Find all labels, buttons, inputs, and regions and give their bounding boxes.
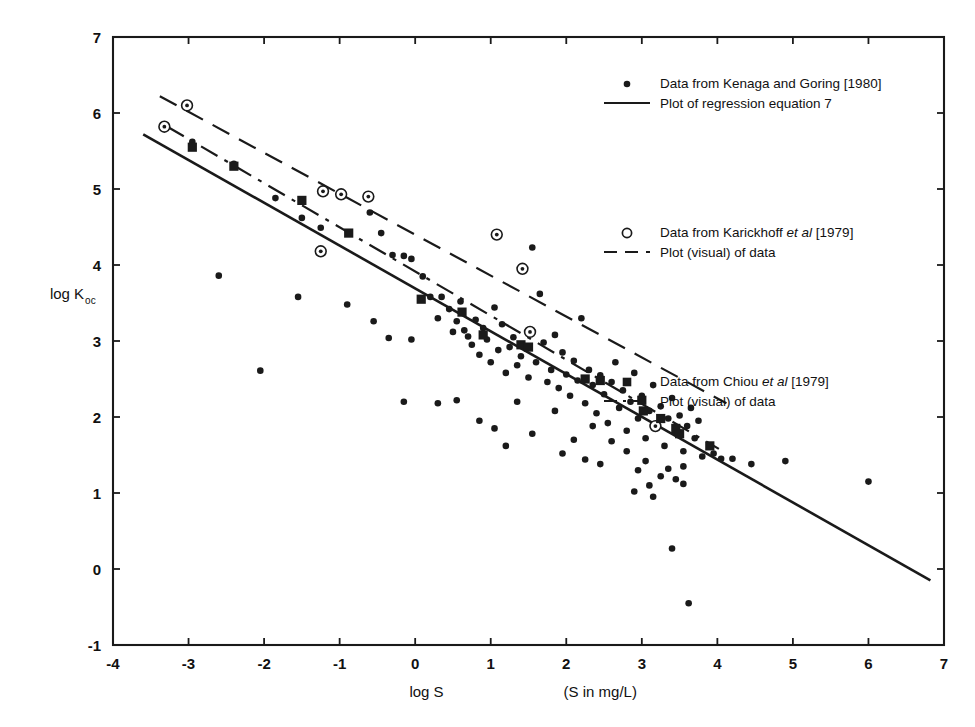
data-point-kenaga [401, 399, 408, 406]
data-point-kenaga [676, 412, 683, 419]
data-point-karickhoff-center [319, 249, 323, 253]
data-point-kenaga [408, 256, 415, 263]
data-point-kenaga [559, 450, 566, 457]
data-point-kenaga [529, 430, 536, 437]
data-point-chiou [344, 228, 353, 237]
data-point-kenaga [710, 450, 717, 457]
data-point-kenaga [378, 230, 385, 237]
data-point-kenaga [514, 362, 521, 369]
data-point-kenaga [665, 415, 672, 422]
data-point-chiou [675, 429, 684, 438]
scatter-plot: -4-3-2-101234567-101234567log S(S in mg/… [0, 0, 975, 727]
data-point-kenaga [680, 481, 687, 488]
x-tick-label: 2 [562, 655, 570, 672]
data-point-kenaga [642, 458, 649, 465]
data-point-kenaga [476, 418, 483, 425]
data-point-chiou [596, 376, 605, 385]
data-point-kenaga [620, 387, 627, 394]
data-point-kenaga [597, 461, 604, 468]
data-point-kenaga [608, 438, 615, 445]
data-point-kenaga [582, 456, 589, 463]
y-tick-label: 1 [93, 485, 101, 502]
data-point-chiou [581, 374, 590, 383]
data-point-kenaga [559, 349, 566, 356]
legend-data-label: Data from Chiou et al [1979] [660, 374, 829, 389]
data-point-kenaga [548, 367, 555, 374]
legend-data-label: Data from Karickhoff et al [1979] [660, 225, 853, 240]
data-point-karickhoff-center [521, 267, 525, 271]
data-point-kenaga [582, 400, 589, 407]
data-point-kenaga [631, 488, 638, 495]
legend-data-label: Data from Kenaga and Goring [1980] [660, 76, 881, 91]
data-point-kenaga [469, 342, 476, 349]
data-point-kenaga [518, 353, 525, 360]
data-point-chiou [188, 143, 197, 152]
x-axis-title: log S [409, 683, 443, 700]
data-point-kenaga [865, 478, 872, 485]
data-point-kenaga [408, 336, 415, 343]
data-point-kenaga [525, 374, 532, 381]
data-point-kenaga [650, 494, 657, 501]
data-point-kenaga [446, 306, 453, 313]
data-point-kenaga [608, 379, 615, 386]
data-point-kenaga [367, 209, 374, 216]
legend-line-label: Plot (visual) of data [660, 394, 776, 409]
y-axis-subscript: oc [85, 295, 96, 306]
legend-marker-open-circle [622, 228, 631, 237]
x-tick-label: 4 [713, 655, 722, 672]
data-point-chiou [229, 162, 238, 171]
data-point-kenaga [718, 456, 725, 463]
legend-marker-filled-square [623, 378, 632, 387]
data-point-kenaga [499, 321, 506, 328]
data-point-kenaga [574, 377, 581, 384]
data-point-kenaga [299, 215, 306, 222]
data-point-chiou [524, 342, 533, 351]
data-point-kenaga [385, 335, 392, 342]
y-tick-label: 5 [93, 181, 101, 198]
data-point-kenaga [567, 392, 574, 399]
data-point-kenaga [685, 600, 692, 607]
data-point-kenaga [680, 463, 687, 470]
data-point-kenaga [571, 357, 578, 364]
data-point-kenaga [510, 334, 517, 341]
data-point-kenaga [657, 473, 664, 480]
data-point-kenaga [623, 427, 630, 434]
data-point-kenaga [593, 410, 600, 417]
data-point-karickhoff-center [339, 192, 343, 196]
data-point-kenaga [586, 367, 593, 374]
data-point-kenaga [623, 448, 630, 455]
x-axis-note: (S in mg/L) [564, 683, 637, 700]
data-point-kenaga [450, 329, 457, 336]
data-point-chiou [417, 295, 426, 304]
data-point-kenaga [465, 333, 472, 340]
data-point-kenaga [589, 423, 596, 430]
x-tick-label: -2 [257, 655, 270, 672]
data-point-kenaga [552, 332, 559, 339]
data-point-kenaga [748, 461, 755, 468]
data-point-kenaga [295, 294, 302, 301]
x-tick-label: -3 [182, 655, 195, 672]
data-point-kenaga [601, 391, 608, 398]
data-point-kenaga [215, 272, 222, 279]
data-point-kenaga [317, 224, 324, 231]
data-point-kenaga [544, 379, 551, 386]
data-point-kenaga [684, 423, 691, 430]
data-point-kenaga [272, 195, 279, 202]
data-point-chiou [457, 308, 466, 317]
data-point-kenaga [435, 315, 442, 322]
data-point-kenaga [506, 344, 513, 351]
trend-line-solid [143, 134, 930, 580]
data-point-kenaga [533, 359, 540, 366]
data-point-kenaga [457, 298, 464, 305]
data-point-kenaga [605, 420, 612, 427]
data-point-kenaga [401, 253, 408, 260]
data-point-kenaga [669, 545, 676, 552]
data-point-kenaga [578, 315, 585, 322]
x-tick-label: -4 [106, 655, 120, 672]
data-point-karickhoff-center [321, 189, 325, 193]
data-point-karickhoff-center [495, 233, 499, 237]
data-point-karickhoff-center [528, 330, 532, 334]
y-tick-label: 6 [93, 105, 101, 122]
data-point-kenaga [514, 399, 521, 406]
data-point-kenaga [529, 244, 536, 251]
